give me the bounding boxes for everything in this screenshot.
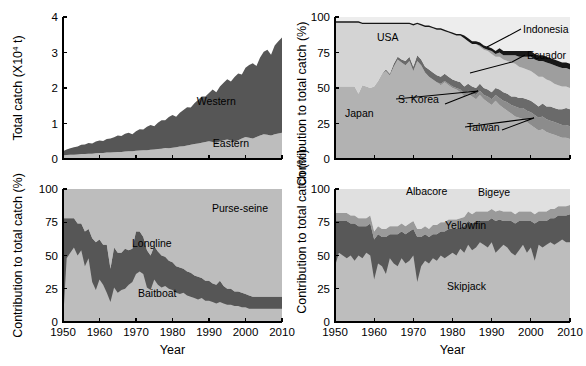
annotation-japan: Japan bbox=[345, 107, 374, 119]
x-tick-label: 2000 bbox=[518, 326, 544, 338]
annotation-taiwan: Taiwan bbox=[467, 121, 500, 133]
y-tick-label: 100 bbox=[311, 183, 330, 195]
annotation-baitboat: Baitboat bbox=[138, 287, 177, 299]
x-axis-label: Year bbox=[440, 343, 465, 357]
annotation-indonesia: Indonesia bbox=[523, 23, 569, 35]
clip-top bbox=[61, 169, 284, 189]
x-tick-label: 1960 bbox=[87, 326, 113, 338]
x-tick-label: 1980 bbox=[160, 326, 186, 338]
y-tick-label: 2 bbox=[52, 82, 58, 94]
x-tick-label: 1970 bbox=[123, 326, 149, 338]
chart-panel-panel-b: 0255075100Contribution to total catch (%… bbox=[295, 0, 572, 186]
x-tick-label: 2000 bbox=[233, 326, 259, 338]
series-label-western: Western bbox=[197, 95, 236, 107]
y-tick-label: 4 bbox=[52, 11, 59, 23]
clip-top bbox=[333, 169, 572, 189]
figure-root: 01234Total catch (X104 t)EasternWestern0… bbox=[0, 0, 586, 366]
y-tick-label: 3 bbox=[52, 47, 58, 59]
y-tick-label: 75 bbox=[317, 216, 330, 228]
chart-panel-panel-a: 01234Total catch (X104 t)EasternWestern bbox=[11, 11, 282, 165]
y-tick-label: 75 bbox=[45, 216, 58, 228]
annotation-s-korea: S. Korea bbox=[398, 93, 439, 105]
x-tick-label: 1990 bbox=[479, 326, 505, 338]
x-tick-label: 2010 bbox=[557, 326, 583, 338]
y-tick-label: 50 bbox=[317, 82, 330, 94]
clip-top bbox=[333, 0, 572, 17]
y-axis-label: Contribution to total catch (%) bbox=[11, 173, 25, 338]
annotation-longline: Longline bbox=[132, 237, 172, 249]
annotation-ecuador: Ecuador bbox=[527, 49, 567, 61]
y-tick-label: 25 bbox=[317, 118, 330, 130]
y-tick-label: 50 bbox=[317, 250, 330, 262]
y-tick-label: 0 bbox=[52, 153, 58, 165]
y-tick-label: 25 bbox=[317, 283, 330, 295]
y-tick-label: 0 bbox=[324, 153, 330, 165]
x-tick-label: 1970 bbox=[401, 326, 427, 338]
annotation-albacore: Albacore bbox=[406, 185, 448, 197]
x-tick-label: 1950 bbox=[50, 326, 76, 338]
y-axis-label: Total catch (X104 t) bbox=[11, 35, 25, 140]
annotation-bigeye: Bigeye bbox=[478, 186, 510, 198]
annotation-skipjack: Skipjack bbox=[447, 280, 487, 292]
y-tick-label: 50 bbox=[45, 250, 58, 262]
annotation-purse-seine: Purse-seine bbox=[212, 202, 268, 214]
y-tick-label: 100 bbox=[311, 11, 330, 23]
series-label-eastern: Eastern bbox=[213, 137, 249, 149]
y-tick-label: 1 bbox=[52, 118, 58, 130]
annotation-usa: USA bbox=[377, 31, 399, 43]
x-axis-label: Year bbox=[160, 343, 185, 357]
annotation-yellowfin: Yellowfin bbox=[445, 219, 486, 231]
x-tick-label: 1980 bbox=[440, 326, 466, 338]
chart-panel-panel-c: 02550751001950196019701980199020002010Ye… bbox=[11, 169, 295, 357]
x-tick-label: 2010 bbox=[269, 326, 295, 338]
chart-panel-panel-d: 02550751001950196019701980199020002010Ye… bbox=[295, 149, 583, 357]
y-tick-label: 100 bbox=[39, 183, 58, 195]
y-tick-label: 25 bbox=[45, 283, 58, 295]
x-tick-label: 1950 bbox=[322, 326, 348, 338]
y-axis-label: Contribution to total catch (%) bbox=[295, 149, 309, 314]
x-tick-label: 1990 bbox=[196, 326, 222, 338]
x-tick-label: 1960 bbox=[361, 326, 387, 338]
y-tick-label: 75 bbox=[317, 47, 330, 59]
